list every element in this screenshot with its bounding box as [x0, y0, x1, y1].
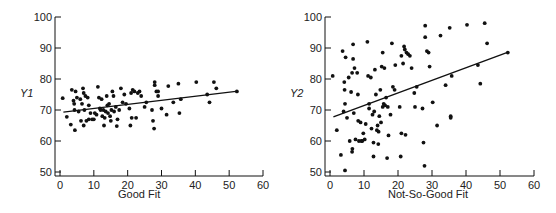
x-axis-title-right: Not-So-Good Fit: [388, 188, 468, 200]
x-tick-label: 50: [223, 179, 235, 191]
data-point: [121, 100, 125, 104]
data-point: [351, 42, 355, 46]
data-point: [483, 21, 487, 25]
data-point: [78, 97, 82, 101]
data-point: [134, 116, 138, 120]
data-point: [423, 35, 427, 39]
data-point: [95, 113, 99, 117]
data-point: [478, 82, 482, 86]
y-tick-label: 50: [40, 166, 52, 178]
data-point: [344, 55, 348, 59]
data-point: [421, 107, 425, 111]
data-point: [377, 130, 381, 134]
data-point: [385, 156, 389, 160]
y-tick-label: 70: [40, 104, 52, 116]
data-point: [364, 122, 368, 126]
data-point: [178, 111, 182, 115]
data-point: [343, 88, 347, 92]
data-point: [65, 115, 69, 119]
data-point: [343, 102, 347, 106]
data-point: [79, 119, 83, 123]
data-point: [348, 139, 352, 143]
data-point: [485, 41, 489, 45]
data-point: [156, 90, 160, 94]
data-point: [428, 65, 432, 69]
data-point: [150, 108, 154, 112]
data-point: [376, 142, 380, 146]
data-point: [435, 124, 439, 128]
data-point: [107, 102, 111, 106]
y-tick-label: 60: [310, 135, 322, 147]
data-point: [412, 91, 416, 95]
data-point: [422, 141, 426, 145]
data-point: [379, 121, 383, 125]
x-tick-label: 40: [189, 179, 201, 191]
y-tick-label: 100: [304, 11, 322, 23]
data-point: [138, 90, 142, 94]
x-tick-label: 10: [358, 179, 370, 191]
data-point: [377, 114, 381, 118]
data-point: [356, 93, 360, 97]
y-tick-label: 50: [310, 166, 322, 178]
data-point: [70, 88, 74, 92]
data-point: [381, 51, 385, 55]
data-point: [100, 97, 104, 101]
data-point: [74, 90, 78, 94]
data-point: [119, 86, 123, 90]
y-tick-label: 60: [40, 135, 52, 147]
data-point: [122, 93, 126, 97]
data-point: [351, 147, 355, 151]
data-point: [465, 23, 469, 27]
data-point: [408, 54, 412, 58]
y-tick-label: 80: [40, 73, 52, 85]
data-point: [376, 124, 380, 128]
data-point: [151, 119, 155, 123]
data-point: [401, 62, 405, 66]
data-point: [115, 124, 119, 128]
data-point: [351, 57, 355, 61]
data-point: [398, 105, 402, 109]
data-point: [359, 121, 363, 125]
data-point: [86, 96, 90, 100]
data-point: [194, 80, 198, 84]
x-tick-label: 50: [494, 179, 506, 191]
data-point: [341, 49, 345, 53]
data-point: [369, 76, 373, 80]
x-axis-title-left: Good Fit: [118, 188, 160, 200]
data-point: [449, 116, 453, 120]
data-point: [413, 105, 417, 109]
data-point: [343, 169, 347, 173]
data-point: [153, 83, 157, 87]
scatter-chart-not-so-good-fit: 50607080901000102030405060: [280, 0, 556, 213]
data-point: [390, 41, 394, 45]
data-point: [367, 107, 371, 111]
data-point: [400, 131, 404, 135]
y-tick-label: 100: [34, 11, 52, 23]
data-point: [353, 66, 357, 70]
data-point: [96, 85, 100, 89]
data-point: [331, 74, 335, 78]
data-point: [156, 94, 160, 98]
data-point: [139, 94, 143, 98]
y-tick-label: 70: [310, 104, 322, 116]
data-point: [439, 34, 443, 38]
x-tick-label: 60: [257, 179, 269, 191]
data-point: [342, 80, 346, 84]
data-point: [339, 153, 343, 157]
data-point: [373, 68, 377, 72]
data-point: [133, 90, 137, 94]
data-point: [87, 117, 91, 121]
axes: 50607080901000102030405060: [304, 11, 540, 191]
data-point: [361, 131, 365, 135]
data-point: [352, 111, 356, 115]
data-point: [410, 66, 414, 70]
data-point: [87, 103, 91, 107]
data-point: [444, 83, 448, 87]
data-point: [160, 107, 164, 111]
data-points: [331, 21, 510, 172]
x-tick-label: 0: [327, 179, 333, 191]
data-point: [152, 127, 156, 131]
data-point: [372, 155, 376, 159]
data-point: [108, 114, 112, 118]
data-point: [372, 141, 376, 145]
